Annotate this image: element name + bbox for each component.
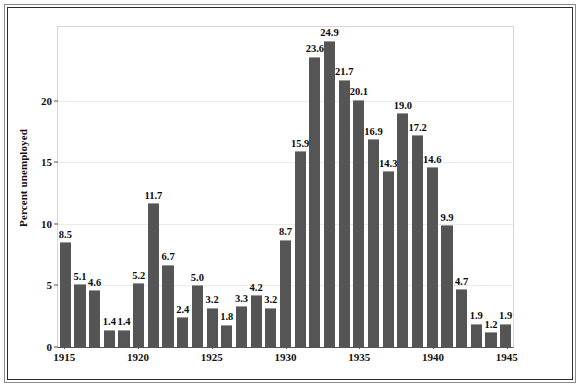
bar-1935[interactable]: [353, 100, 364, 347]
bar-slot: 2.4: [175, 27, 190, 347]
bar-1917[interactable]: [89, 290, 100, 347]
bar-series: 8.55.14.61.41.45.211.76.72.45.03.21.83.3…: [58, 27, 513, 347]
bar-1919[interactable]: [118, 330, 129, 347]
bar-slot: 3.2: [205, 27, 220, 347]
bar-1933[interactable]: [324, 41, 335, 347]
x-tick-mark-1920: [138, 346, 139, 349]
y-tick-label-10: 10: [41, 218, 58, 230]
bar-slot: 1.4: [117, 27, 132, 347]
bar-value-label-1945: 1.9: [499, 311, 512, 322]
bar-value-label-1925: 3.2: [206, 295, 219, 306]
bar-slot: 4.2: [249, 27, 264, 347]
bar-1938[interactable]: [397, 113, 408, 347]
x-tick-label-1935: 1935: [348, 351, 370, 363]
bar-value-label-1942: 4.7: [455, 277, 468, 288]
bar-1937[interactable]: [383, 171, 394, 347]
x-tick-mark-1930: [286, 346, 287, 349]
bar-1922[interactable]: [162, 265, 173, 347]
bar-slot: 4.7: [454, 27, 469, 347]
bar-1945[interactable]: [500, 324, 511, 347]
bar-1929[interactable]: [265, 308, 276, 347]
bar-value-label-1923: 2.4: [176, 305, 189, 316]
bar-slot: 6.7: [161, 27, 176, 347]
x-tick-label-1925: 1925: [201, 351, 223, 363]
x-tick-label-1945: 1945: [496, 351, 518, 363]
bar-1926[interactable]: [221, 325, 232, 347]
bar-value-label-1920: 5.2: [132, 271, 145, 282]
bar-slot: 5.2: [131, 27, 146, 347]
bar-1942[interactable]: [456, 289, 467, 347]
bar-slot: 14.3: [381, 27, 396, 347]
bar-1924[interactable]: [192, 285, 203, 347]
bar-value-label-1918: 1.4: [103, 317, 116, 328]
bar-slot: 19.0: [396, 27, 411, 347]
x-tick-mark-1940: [433, 346, 434, 349]
x-axis-tick-labels: 1915192019251930193519401945: [57, 349, 514, 369]
bar-value-label-1929: 3.2: [264, 295, 277, 306]
bar-1939[interactable]: [412, 135, 423, 347]
bar-1944[interactable]: [485, 332, 496, 347]
bar-1923[interactable]: [177, 317, 188, 347]
bar-slot: 15.9: [293, 27, 308, 347]
bar-1943[interactable]: [471, 324, 482, 347]
bar-1921[interactable]: [148, 203, 159, 347]
bar-value-label-1944: 1.2: [484, 320, 497, 331]
plot-area: 05101520 8.55.14.61.41.45.211.76.72.45.0…: [57, 26, 514, 348]
bar-1941[interactable]: [441, 225, 452, 347]
bar-1931[interactable]: [295, 151, 306, 347]
unemployment-bar-chart-figure: Percent unemployed 05101520 8.55.14.61.4…: [0, 0, 580, 387]
bar-value-label-1928: 4.2: [250, 283, 263, 294]
bar-slot: 4.6: [87, 27, 102, 347]
bar-value-label-1919: 1.4: [117, 317, 130, 328]
bar-1940[interactable]: [427, 167, 438, 347]
bar-1925[interactable]: [207, 308, 218, 347]
y-tick-label-5: 5: [47, 279, 59, 291]
x-tick-label-1920: 1920: [127, 351, 149, 363]
bar-1928[interactable]: [251, 295, 262, 347]
bar-slot: 14.6: [425, 27, 440, 347]
bar-value-label-1926: 1.8: [220, 312, 233, 323]
x-tick-mark-1915: [64, 346, 65, 349]
bar-1934[interactable]: [339, 80, 350, 347]
bar-value-label-1915: 8.5: [59, 230, 72, 241]
bar-slot: 17.2: [410, 27, 425, 347]
bar-slot: 21.7: [337, 27, 352, 347]
bar-value-label-1930: 8.7: [279, 227, 292, 238]
bar-slot: 23.6: [308, 27, 323, 347]
bar-value-label-1922: 6.7: [162, 252, 175, 263]
bar-value-label-1943: 1.9: [470, 311, 483, 322]
bar-value-label-1916: 5.1: [73, 272, 86, 283]
bar-1920[interactable]: [133, 283, 144, 347]
y-tick-label-20: 20: [41, 95, 58, 107]
bar-value-label-1921: 11.7: [144, 191, 162, 202]
bar-1916[interactable]: [74, 284, 85, 347]
bar-value-label-1924: 5.0: [191, 273, 204, 284]
bar-1932[interactable]: [309, 57, 320, 347]
bar-slot: 1.8: [219, 27, 234, 347]
x-tick-label-1940: 1940: [422, 351, 444, 363]
bar-value-label-1917: 4.6: [88, 278, 101, 289]
bar-slot: 5.1: [73, 27, 88, 347]
bar-1918[interactable]: [104, 330, 115, 347]
bar-1930[interactable]: [280, 240, 291, 347]
bar-slot: 20.1: [352, 27, 367, 347]
bar-slot: 1.9: [498, 27, 513, 347]
bar-slot: 8.5: [58, 27, 73, 347]
bar-1936[interactable]: [368, 139, 379, 347]
y-tick-label-15: 15: [41, 156, 58, 168]
bar-slot: 8.7: [278, 27, 293, 347]
y-axis-title-text: Percent unemployed: [17, 129, 29, 227]
x-tick-label-1930: 1930: [275, 351, 297, 363]
bar-value-label-1927: 3.3: [235, 294, 248, 305]
x-tick-label-1915: 1915: [53, 351, 75, 363]
bar-value-label-1941: 9.9: [440, 213, 453, 224]
bar-1915[interactable]: [60, 242, 71, 347]
bar-slot: 3.2: [263, 27, 278, 347]
bar-1927[interactable]: [236, 306, 247, 347]
bar-slot: 1.9: [469, 27, 484, 347]
bar-slot: 16.9: [366, 27, 381, 347]
bar-slot: 1.4: [102, 27, 117, 347]
bar-slot: 9.9: [440, 27, 455, 347]
x-tick-mark-1945: [507, 346, 508, 349]
bar-slot: 1.2: [484, 27, 499, 347]
